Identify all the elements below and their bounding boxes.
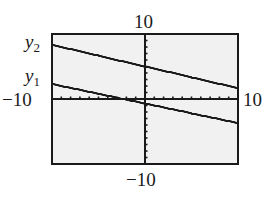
xmax-label: 10 bbox=[243, 90, 262, 109]
series-label-y1: y1 bbox=[25, 66, 40, 88]
ymin-label: −10 bbox=[126, 170, 156, 189]
xmin-label: −10 bbox=[2, 90, 32, 109]
ymax-label: 10 bbox=[134, 12, 153, 31]
series-label-y2: y2 bbox=[25, 32, 40, 54]
